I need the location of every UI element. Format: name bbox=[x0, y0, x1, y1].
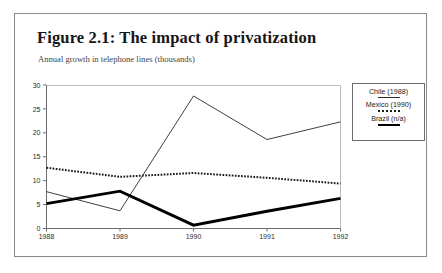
series-line-chile-1988 bbox=[47, 96, 341, 211]
y-axis-ticks: 051015202530 bbox=[33, 82, 47, 233]
data-series-group bbox=[47, 96, 341, 225]
legend-entry-brazil-n-a[interactable]: Brazil (n/a) bbox=[353, 114, 424, 126]
chart-legend: Chile (1988)Mexico (1990)Brazil (n/a) bbox=[352, 83, 425, 141]
figure-container: Figure 2.1: The impact of privatization … bbox=[0, 0, 442, 273]
x-tick-label: 1989 bbox=[112, 233, 128, 240]
x-tick-label: 1992 bbox=[333, 233, 349, 240]
x-tick-label: 1988 bbox=[39, 233, 55, 240]
y-tick-label: 10 bbox=[33, 177, 41, 184]
x-tick-label: 1991 bbox=[259, 233, 275, 240]
y-tick-label: 0 bbox=[37, 225, 41, 232]
legend-label: Brazil (n/a) bbox=[353, 114, 424, 123]
legend-label: Chile (1988) bbox=[353, 87, 424, 96]
y-tick-label: 15 bbox=[33, 153, 41, 160]
x-tick-label: 1990 bbox=[186, 233, 202, 240]
legend-line-sample-thin bbox=[378, 97, 400, 98]
legend-label: Mexico (1990) bbox=[353, 100, 424, 109]
series-line-brazil-n-a bbox=[47, 191, 341, 225]
legend-line-sample-thick bbox=[378, 124, 400, 126]
series-line-mexico-1990 bbox=[47, 168, 341, 184]
legend-entry-chile-1988[interactable]: Chile (1988) bbox=[353, 87, 424, 98]
y-tick-label: 25 bbox=[33, 106, 41, 113]
y-tick-label: 5 bbox=[37, 201, 41, 208]
legend-entry-mexico-1990[interactable]: Mexico (1990) bbox=[353, 100, 424, 112]
y-tick-label: 30 bbox=[33, 82, 41, 89]
y-tick-label: 20 bbox=[33, 129, 41, 136]
legend-line-sample-dotted bbox=[378, 110, 400, 112]
x-axis-ticks: 19881989199019911992 bbox=[39, 229, 349, 241]
